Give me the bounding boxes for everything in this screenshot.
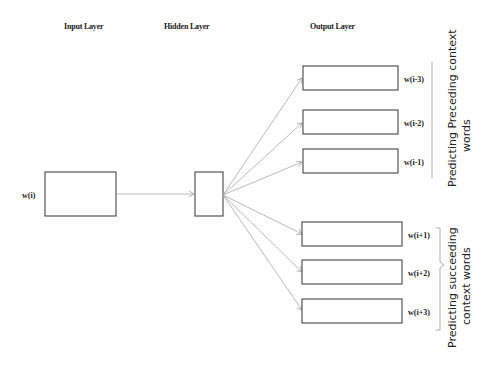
succeeding-group-label: Predicting succeeding (446, 227, 459, 348)
output-label-3: w(i-1) (404, 158, 424, 167)
edge-to-output-2 (223, 123, 302, 195)
input-layer-header: Input Layer (64, 22, 104, 31)
preceding-label-line2: words (460, 119, 473, 152)
edge-to-output-4 (223, 195, 302, 234)
edge-to-output-1 (223, 78, 302, 195)
succeeding-bracket (436, 228, 444, 330)
succeeding-label-line2: context words (460, 247, 473, 325)
output-box-1 (303, 66, 398, 90)
output-box-6 (302, 299, 402, 323)
input-word-label: w(i) (22, 191, 36, 200)
input-layer-box (45, 172, 116, 216)
skip-gram-diagram: Input Layer Hidden Layer Output Layer w(… (0, 0, 500, 369)
output-label-6: w(i+3) (408, 308, 430, 317)
hidden-layer-header: Hidden Layer (164, 22, 210, 31)
succeeding-label-line1: Predicting succeeding (446, 227, 459, 348)
output-label-1: w(i-3) (404, 75, 424, 84)
output-box-5 (302, 260, 402, 284)
edge-to-output-5 (223, 195, 302, 272)
preceding-group-label-2: words (460, 119, 473, 152)
output-box-3 (303, 149, 398, 173)
output-layer-header: Output Layer (310, 22, 356, 31)
output-box-2 (303, 110, 398, 134)
output-label-5: w(i+2) (408, 269, 430, 278)
preceding-group-label: Predicting Preceding context (446, 29, 459, 187)
diagram-canvas: Input Layer Hidden Layer Output Layer w(… (0, 0, 500, 369)
hidden-layer-box (195, 172, 223, 216)
succeeding-group-label-2: context words (460, 247, 473, 325)
output-label-4: w(i+1) (408, 231, 430, 240)
output-box-4 (302, 222, 402, 246)
edge-to-output-3 (223, 162, 302, 195)
preceding-label-line1: Predicting Preceding context (446, 29, 459, 187)
edge-to-output-6 (223, 195, 302, 310)
output-label-2: w(i-2) (404, 119, 424, 128)
